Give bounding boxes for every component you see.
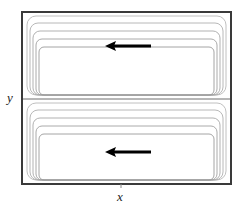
- y-axis-label: y: [7, 91, 13, 104]
- domain-background: [22, 12, 231, 184]
- x-axis-label: x: [117, 190, 123, 203]
- streamline-canvas: [0, 0, 246, 207]
- streamline-figure: y x: [0, 0, 246, 207]
